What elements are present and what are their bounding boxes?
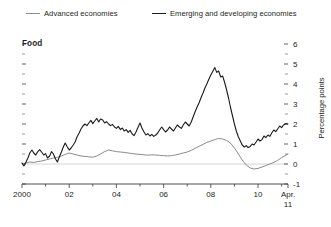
y-axis-tick-label: 5 <box>293 60 298 69</box>
food-inflation-chart: Advanced economies Emerging and developi… <box>0 0 331 227</box>
x-axis-ticks <box>22 184 288 188</box>
series-line-emerging-and-developing-economies <box>22 68 288 166</box>
y-axis-title-label: Percentage points <box>317 77 326 138</box>
y-axis-tick-labels: -10123456 <box>293 40 301 189</box>
x-axis-tick-label: 10 <box>254 190 263 199</box>
y-axis-tick-label: 4 <box>293 80 298 89</box>
y-axis-tick-label: 3 <box>293 100 298 109</box>
x-axis-tick-label: 2000 <box>13 190 31 199</box>
y-axis-tick-label: 2 <box>293 120 298 129</box>
plot-canvas: -10123456 20000204060810Apr.11 Percentag… <box>0 0 331 227</box>
y-axis-major-ticks <box>22 44 288 184</box>
x-axis-tick-label: 04 <box>112 190 121 199</box>
x-axis-tick-labels: 20000204060810Apr.11 <box>13 190 295 209</box>
x-axis-tick-label: 02 <box>65 190 74 199</box>
y-axis-tick-label: -1 <box>293 180 301 189</box>
y-axis-tick-label: 1 <box>293 140 298 149</box>
y-axis-tick-label: 6 <box>293 40 298 49</box>
x-axis-tick-label: 08 <box>206 190 215 199</box>
x-axis-tick-label: 06 <box>159 190 168 199</box>
series-line-advanced-economies <box>22 138 288 169</box>
x-axis-tick-sublabel: 11 <box>284 200 293 209</box>
x-axis-tick-label: Apr. <box>281 190 295 199</box>
y-axis-tick-label: 0 <box>293 160 298 169</box>
y-axis-title: Percentage points <box>317 77 326 138</box>
data-series-group <box>22 68 288 169</box>
